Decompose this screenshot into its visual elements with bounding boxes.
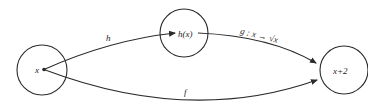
edge-f: f — [44, 70, 317, 101]
edge-f-label: f — [184, 87, 188, 97]
edge-g-label: g : x → √x — [239, 26, 279, 45]
node-x2: x+2 — [320, 46, 368, 94]
edge-g: g : x → √x — [198, 26, 316, 63]
edge-h: h — [44, 33, 175, 70]
node-x-label: x — [34, 65, 39, 75]
edge-h-label: h — [106, 33, 111, 43]
node-x-circle — [17, 45, 67, 95]
function-composition-diagram: x h(x) x+2 h g : x → √x f — [0, 0, 368, 108]
node-x: x — [17, 45, 67, 95]
node-hx-label: h(x) — [178, 29, 193, 39]
edge-f-arrow — [44, 70, 317, 101]
node-x2-label: x+2 — [332, 66, 348, 76]
